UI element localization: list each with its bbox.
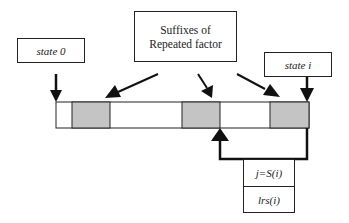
string-bar	[56, 102, 309, 128]
repeated-suffix-segment-1	[72, 102, 110, 128]
state-0-label: state 0	[36, 45, 65, 57]
state-i-box: state i	[264, 52, 332, 77]
lrs-label: lrs(i)	[258, 194, 280, 206]
lrs-box: lrs(i)	[243, 186, 295, 213]
suffixes-label-line2: Repeated factor	[149, 37, 221, 51]
suffix-arrow-left-icon	[105, 74, 158, 98]
suffixes-label-line1: Suffixes of	[160, 23, 211, 37]
suffix-arrow-middle-icon	[198, 74, 213, 98]
suffix-link-box: j=S(i)	[243, 159, 295, 187]
state-i-arrow-icon	[300, 77, 314, 102]
state-0-arrow-icon	[50, 74, 62, 102]
suffix-arrow-right-icon	[237, 74, 280, 97]
suffixes-box: Suffixes of Repeated factor	[134, 11, 237, 62]
repeated-suffix-segment-2	[182, 102, 220, 128]
suffix-link-bracket	[211, 128, 307, 159]
state-i-label: state i	[285, 59, 312, 71]
state-0-box: state 0	[17, 38, 85, 63]
suffix-link-arrowhead-icon	[211, 128, 229, 141]
repeated-suffix-segment-3	[270, 102, 309, 128]
suffix-link-label: j=S(i)	[256, 167, 282, 179]
